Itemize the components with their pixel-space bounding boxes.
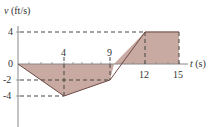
y-tick-4: 4 xyxy=(8,26,13,37)
x-tick-9: 9 xyxy=(107,47,112,58)
velocity-time-chart: v (ft/s) t (s) 4 0 -2 -4 4 9 12 15 xyxy=(0,0,215,127)
x-axis-label: t (s) xyxy=(190,58,206,70)
x-tick-15: 15 xyxy=(173,69,183,80)
x-tick-12: 12 xyxy=(139,69,149,80)
y-axis-label: v (ft/s) xyxy=(4,5,30,17)
area-fill-positive xyxy=(114,32,179,64)
x-tick-4: 4 xyxy=(61,47,66,58)
y-tick-0: 0 xyxy=(8,58,13,69)
y-tick-minus-2: -2 xyxy=(3,74,11,85)
y-tick-minus-4: -4 xyxy=(3,90,11,101)
